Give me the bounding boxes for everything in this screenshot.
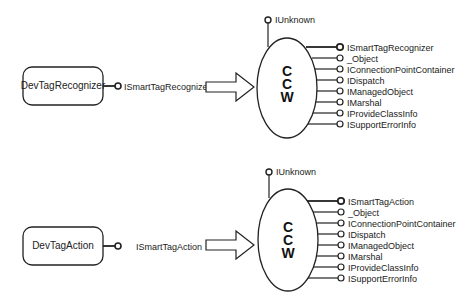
interface-lollipop-icon <box>338 253 344 259</box>
interface-list: ISmartTagAction _Object IConnectionPoint… <box>338 197 456 284</box>
interface-label: _Object <box>347 208 380 218</box>
arrow-icon <box>206 231 254 259</box>
iunknown-label: IUnknown <box>276 167 316 177</box>
iunknown-lollipop-icon <box>266 169 272 175</box>
interface-lollipop-icon <box>115 83 121 89</box>
interface-lollipop-icon <box>338 275 344 281</box>
interface-label: IDispatch <box>347 76 385 86</box>
interface-label: ISmartTagRecognizer <box>347 43 434 53</box>
interface-label: _Object <box>346 54 379 64</box>
interface-lollipop-icon <box>337 55 343 61</box>
interface-lollipop-icon <box>337 66 343 72</box>
interface-lollipop-icon <box>337 110 343 116</box>
arrow-icon <box>206 73 254 101</box>
interface-label: IProvideClassInfo <box>348 263 419 273</box>
interface-label: IConnectionPointContainer <box>347 65 455 75</box>
interface-lollipop-icon <box>338 209 344 215</box>
interface-lollipop-icon <box>338 220 344 226</box>
diagram-action: DevTagAction ISmartTagAction IUnknown C … <box>23 167 456 291</box>
interface-lollipop-icon <box>337 88 343 94</box>
interface-label: ISmartTagAction <box>348 197 414 207</box>
interface-label: ISupportErrorInfo <box>348 274 417 284</box>
interface-label: IMarshal <box>347 98 382 108</box>
interface-label: IManagedObject <box>347 87 414 97</box>
interface-lollipop-icon <box>338 242 344 248</box>
interface-lollipop-icon <box>337 77 343 83</box>
component-label: DevTagRecognizer <box>21 80 106 91</box>
iunknown-lollipop-icon <box>265 17 271 23</box>
interface-label: ISupportErrorInfo <box>347 120 416 130</box>
interface-label: IProvideClassInfo <box>347 109 418 119</box>
component-label: DevTagAction <box>32 240 94 251</box>
interface-list: ISmartTagRecognizer _Object IConnectionP… <box>337 43 455 130</box>
iunknown-label: IUnknown <box>275 15 315 25</box>
interface-label: IConnectionPointContainer <box>348 219 456 229</box>
interface-lollipop-icon <box>115 243 121 249</box>
interface-lollipop-icon <box>337 99 343 105</box>
diagram-recognizer: DevTagRecognizer ISmartTagRecognizer IUn… <box>21 15 455 138</box>
interface-label: IMarshal <box>348 252 383 262</box>
ccw-letter: W <box>280 89 294 105</box>
interface-lollipop-icon <box>338 198 344 204</box>
interface-lollipop-icon <box>337 121 343 127</box>
exposed-interface-label: ISmartTagAction <box>136 242 202 252</box>
ccw-letter: W <box>281 245 295 261</box>
interface-lollipop-icon <box>338 264 344 270</box>
exposed-interface-label: ISmartTagRecognizer <box>124 82 211 92</box>
interface-lollipop-icon <box>338 231 344 237</box>
interface-label: IManagedObject <box>348 241 415 251</box>
ccw-diagram: DevTagRecognizer ISmartTagRecognizer IUn… <box>0 0 472 301</box>
interface-label: IDispatch <box>348 230 386 240</box>
interface-lollipop-icon <box>337 44 343 50</box>
